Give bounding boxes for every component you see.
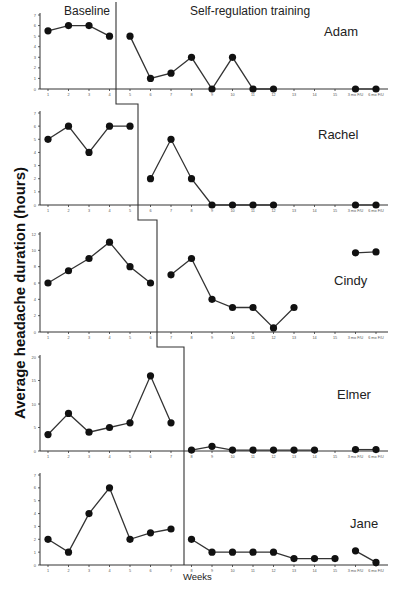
svg-text:0: 0 — [34, 203, 37, 208]
svg-text:13: 13 — [292, 336, 296, 340]
data-point — [352, 249, 359, 256]
data-point — [167, 136, 174, 143]
svg-text:3 mo F/U: 3 mo F/U — [348, 93, 364, 97]
svg-text:3: 3 — [88, 93, 90, 97]
svg-text:4: 4 — [34, 150, 37, 155]
svg-text:12: 12 — [271, 336, 275, 340]
data-point — [126, 263, 133, 270]
svg-text:9: 9 — [211, 93, 213, 97]
panel-elmer: 051015201234567891011121314153 mo F/U6 m… — [32, 355, 388, 459]
svg-text:10: 10 — [230, 209, 234, 213]
svg-text:3: 3 — [34, 524, 37, 529]
svg-text:13: 13 — [292, 93, 296, 97]
data-point — [65, 22, 72, 29]
svg-text:6 mo F/U: 6 mo F/U — [368, 569, 384, 573]
baseline-line — [48, 26, 110, 37]
svg-text:2: 2 — [67, 209, 69, 213]
svg-text:6: 6 — [34, 124, 37, 129]
data-point — [147, 529, 154, 536]
svg-text:13: 13 — [292, 455, 296, 459]
svg-text:7: 7 — [34, 111, 37, 116]
data-point — [188, 536, 195, 543]
data-point — [311, 555, 318, 562]
data-point — [126, 536, 133, 543]
data-point — [290, 304, 297, 311]
svg-text:4: 4 — [108, 209, 110, 213]
data-point — [229, 54, 236, 61]
svg-text:3: 3 — [88, 569, 90, 573]
svg-text:4: 4 — [108, 336, 110, 340]
svg-text:0: 0 — [34, 563, 37, 568]
data-point — [85, 510, 92, 517]
svg-text:9: 9 — [211, 209, 213, 213]
data-point — [44, 431, 51, 438]
data-point — [188, 255, 195, 262]
svg-text:5: 5 — [129, 209, 131, 213]
svg-text:5: 5 — [34, 498, 37, 503]
svg-text:7: 7 — [34, 473, 37, 478]
svg-text:11: 11 — [251, 455, 255, 459]
svg-text:6: 6 — [34, 281, 37, 286]
svg-text:2: 2 — [34, 65, 37, 70]
data-point — [147, 279, 154, 286]
svg-text:4: 4 — [34, 297, 37, 302]
svg-text:2: 2 — [67, 336, 69, 340]
svg-text:7: 7 — [170, 455, 172, 459]
svg-text:2: 2 — [67, 93, 69, 97]
svg-text:8: 8 — [190, 455, 192, 459]
svg-text:3: 3 — [88, 336, 90, 340]
svg-text:15: 15 — [333, 455, 337, 459]
svg-text:1: 1 — [47, 93, 49, 97]
svg-text:11: 11 — [251, 209, 255, 213]
svg-text:4: 4 — [34, 511, 37, 516]
treatment-line — [171, 259, 294, 328]
svg-text:6: 6 — [149, 93, 151, 97]
data-point — [208, 85, 215, 92]
svg-text:2: 2 — [67, 455, 69, 459]
svg-text:14: 14 — [312, 336, 316, 340]
data-point — [44, 279, 51, 286]
data-point — [352, 201, 359, 208]
data-point — [65, 549, 72, 556]
svg-text:9: 9 — [211, 455, 213, 459]
data-point — [311, 446, 318, 453]
data-point — [270, 201, 277, 208]
participant-label-jane: Jane — [350, 516, 378, 531]
data-point — [65, 267, 72, 274]
data-point — [372, 446, 379, 453]
svg-text:1: 1 — [34, 76, 37, 81]
participant-label-elmer: Elmer — [337, 387, 371, 402]
baseline-line — [48, 126, 130, 152]
treatment-line — [151, 139, 274, 205]
svg-text:5: 5 — [129, 336, 131, 340]
svg-text:13: 13 — [292, 209, 296, 213]
svg-text:3 mo F/U: 3 mo F/U — [348, 336, 364, 340]
data-point — [167, 271, 174, 278]
data-point — [229, 446, 236, 453]
data-point — [208, 201, 215, 208]
data-point — [167, 70, 174, 77]
data-point — [188, 175, 195, 182]
svg-text:12: 12 — [271, 209, 275, 213]
data-point — [126, 419, 133, 426]
svg-text:8: 8 — [190, 93, 192, 97]
data-point — [106, 33, 113, 40]
svg-text:8: 8 — [190, 209, 192, 213]
participant-label-adam: Adam — [324, 24, 358, 39]
svg-text:0: 0 — [34, 449, 37, 454]
data-point — [188, 446, 195, 453]
svg-text:6: 6 — [149, 209, 151, 213]
svg-text:3 mo F/U: 3 mo F/U — [348, 455, 364, 459]
data-point — [290, 555, 297, 562]
data-point — [229, 304, 236, 311]
svg-text:6: 6 — [34, 23, 37, 28]
svg-text:12: 12 — [271, 93, 275, 97]
svg-text:11: 11 — [251, 93, 255, 97]
svg-text:12: 12 — [271, 569, 275, 573]
svg-text:5: 5 — [129, 93, 131, 97]
data-point — [229, 201, 236, 208]
svg-text:3: 3 — [34, 55, 37, 60]
data-point — [249, 446, 256, 453]
data-point — [352, 547, 359, 554]
data-point — [270, 549, 277, 556]
